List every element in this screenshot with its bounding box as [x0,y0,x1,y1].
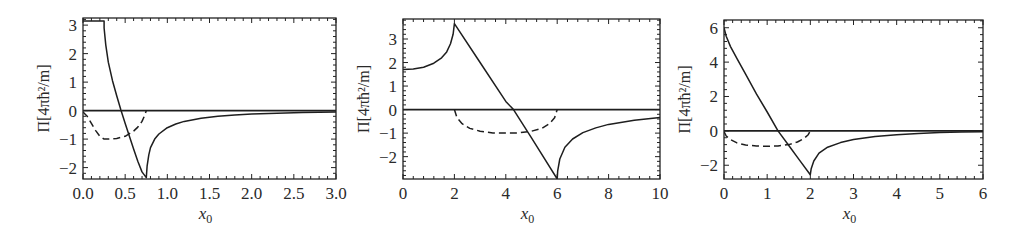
x-tick-label: 5 [936,184,945,203]
x-tick-label: 1.5 [199,184,220,203]
x-tick-label: 0.0 [72,184,93,203]
y-tick-label: 2 [69,45,78,64]
y-tick-label: 3 [389,30,398,49]
x-tick-label: 6 [979,184,988,203]
x-tick-label: 2 [450,184,459,203]
chart-canvas: 0.00.51.01.52.02.53.03210−1−2x0Π[4πħ²/m]… [0,0,1013,243]
plot-frame [83,18,336,179]
plot-frame [403,19,660,179]
tick-marks [724,20,983,179]
tick-marks [403,19,660,179]
plot-frame [724,20,983,179]
series-group [724,28,983,175]
x-tick-label: 0 [399,184,408,203]
x-tick-label: 0 [720,184,729,203]
Pi-dashed-line [83,111,146,140]
x-tick-label: 4 [502,184,511,203]
x-axis-title: x0 [842,204,857,226]
Pi-dashed-line [724,131,810,146]
x-tick-label: 10 [652,184,669,203]
Pi-solid-line [403,24,660,179]
x-tick-label: 4 [892,184,901,203]
panel-3: 01234566420−2x0Π[4πħ²/m] [676,19,987,226]
panel-1: 0.00.51.01.52.02.53.03210−1−2x0Π[4πħ²/m] [35,16,347,226]
y-axis-title: Π[4πħ²/m] [355,65,372,133]
y-tick-label: 4 [710,53,719,72]
y-tick-label: 0 [710,122,719,141]
y-tick-label: 1 [69,73,78,92]
Pi-solid-line [724,28,983,175]
y-axis-title: Π[4πħ²/m] [676,66,693,134]
x-tick-label: 0.5 [115,184,136,203]
x-tick-label: 2.0 [241,184,262,203]
y-tick-label: −2 [59,159,77,178]
y-tick-label: 0 [389,101,398,120]
x-tick-label: 2.5 [283,184,304,203]
y-tick-label: 3 [69,16,78,35]
series-group [403,24,660,179]
y-tick-label: 2 [710,87,719,106]
series-group [83,21,336,178]
y-tick-label: −2 [379,148,397,167]
x-axis-title: x0 [520,204,535,226]
panel-2: 02468103210−1−2x0Π[4πħ²/m] [355,19,669,226]
y-tick-label: −1 [59,130,77,149]
y-axis-title: Π[4πħ²/m] [35,65,52,133]
y-tick-label: −2 [700,156,718,175]
y-tick-label: 6 [710,19,719,38]
x-tick-label: 2 [806,184,815,203]
y-tick-label: 2 [389,54,398,73]
x-tick-label: 6 [553,184,562,203]
x-tick-label: 1 [763,184,772,203]
y-tick-label: 0 [69,102,78,121]
Pi-solid-line [83,21,336,178]
x-tick-label: 3.0 [325,184,346,203]
Pi-dashed-line [454,110,557,134]
x-axis-title: x0 [198,204,213,226]
figure: 0.00.51.01.52.02.53.03210−1−2x0Π[4πħ²/m]… [0,0,1013,243]
x-tick-label: 3 [849,184,858,203]
x-tick-label: 1.0 [157,184,178,203]
x-tick-label: 8 [604,184,613,203]
tick-marks [83,18,336,179]
y-tick-label: 1 [389,77,398,96]
y-tick-label: −1 [379,124,397,143]
